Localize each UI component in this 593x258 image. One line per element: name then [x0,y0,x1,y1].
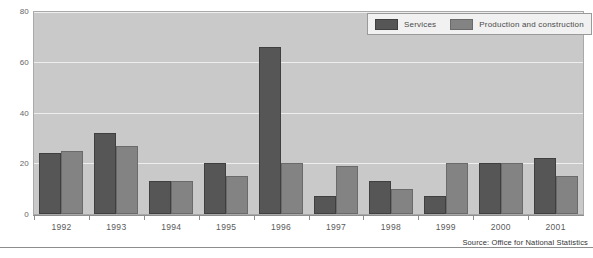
x-tick-label-2001: 2001 [528,222,583,236]
legend-label-services: Services [404,20,436,29]
x-tick-label-1998: 1998 [363,222,418,236]
bar-production-1995 [226,176,248,214]
bar-services-1993 [94,133,116,214]
legend-swatch-icon-services [375,19,398,30]
x-tick-label-1992: 1992 [34,222,89,236]
bar-chart: 80 60 40 20 0 19921993199419951996199719… [0,0,593,258]
bar-group [89,12,144,214]
x-axis-ticks [34,215,583,220]
footer-divider [0,247,593,248]
bar-services-2001 [534,158,556,214]
bar-production-1999 [446,163,468,214]
legend-entry-production: Production and construction [450,19,584,30]
bar-production-2000 [501,163,523,214]
bar-production-1992 [61,151,83,214]
x-tick-mark [309,215,310,220]
y-tick-label-60: 60 [0,58,29,67]
x-tick-cell [254,215,309,220]
x-tick-label-2000: 2000 [473,222,528,236]
legend-label-production: Production and construction [479,20,584,29]
bar-group [309,12,364,214]
bar-group [34,12,89,214]
bar-services-1996 [259,47,281,214]
x-tick-label-1993: 1993 [89,222,144,236]
x-tick-mark [144,215,145,220]
bar-group [418,12,473,214]
bar-production-1993 [116,146,138,214]
bar-group [473,12,528,214]
bar-production-1997 [336,166,358,214]
x-tick-cell [199,215,254,220]
bars-layer [34,12,583,214]
x-tick-cell [473,215,528,220]
x-tick-label-1999: 1999 [418,222,473,236]
legend-entry-services: Services [375,19,436,30]
bar-services-1994 [149,181,171,214]
bar-group [144,12,199,214]
x-tick-label-1994: 1994 [144,222,199,236]
x-tick-mark [34,215,35,220]
x-tick-cell [528,215,583,220]
x-tick-label-1995: 1995 [199,222,254,236]
bar-production-1994 [171,181,193,214]
legend: Services Production and construction [367,13,592,35]
x-tick-cell [89,215,144,220]
x-tick-mark [473,215,474,220]
bar-services-1997 [314,196,336,214]
x-tick-label-1997: 1997 [309,222,364,236]
x-tick-mark [254,215,255,220]
x-tick-label-1996: 1996 [254,222,309,236]
bar-services-2000 [479,163,501,214]
y-tick-label-20: 20 [0,159,29,168]
x-tick-mark [363,215,364,220]
x-tick-cell [363,215,418,220]
bar-production-2001 [556,176,578,214]
bar-group [528,12,583,214]
x-tick-mark [199,215,200,220]
bar-group [254,12,309,214]
x-tick-mark [418,215,419,220]
y-tick-label-40: 40 [0,109,29,118]
bar-services-1999 [424,196,446,214]
x-tick-cell [144,215,199,220]
bar-group [363,12,418,214]
x-tick-mark [89,215,90,220]
bar-production-1998 [391,189,413,214]
x-tick-mark [528,215,529,220]
y-tick-label-80: 80 [0,7,29,16]
y-axis: 80 60 40 20 0 [0,11,29,215]
legend-swatch-icon-production [450,19,473,30]
y-tick-label-0: 0 [0,210,29,219]
bar-services-1992 [39,153,61,214]
bar-services-1998 [369,181,391,214]
x-tick-cell [309,215,364,220]
bar-group [199,12,254,214]
source-note: Source: Office for National Statistics [462,238,588,247]
x-tick-cell [34,215,89,220]
bar-production-1996 [281,163,303,214]
bar-services-1995 [204,163,226,214]
x-tick-cell [418,215,473,220]
x-axis-labels: 1992199319941995199619971998199920002001 [34,222,583,236]
